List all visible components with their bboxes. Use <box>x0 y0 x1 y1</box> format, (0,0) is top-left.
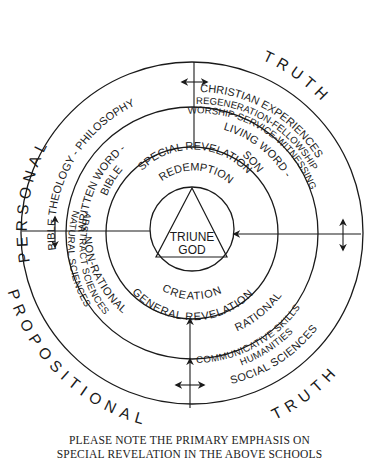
label-bible-theology: BIBLE THEOLOGY - PHILOSOPHY <box>45 96 137 251</box>
center-label-line1: TRIUNE <box>170 230 215 244</box>
outer-label-propositional: PROPOSITIONAL <box>4 287 150 429</box>
note-line-1: PLEASE NOTE THE PRIMARY EMPHASIS ON <box>0 433 379 447</box>
label-redemption: REDEMPTION <box>156 161 236 186</box>
label-creation: CREATION <box>160 282 222 302</box>
outer-label-truth-top: TRUTH <box>261 47 335 106</box>
center-label-line2: GOD <box>178 243 206 257</box>
outer-label-truth-bottom: TRUTH <box>269 362 342 423</box>
note-line-2: SPECIAL REVELATION IN THE ABOVE SCHOOLS <box>0 447 379 461</box>
inner-ring <box>150 187 234 271</box>
